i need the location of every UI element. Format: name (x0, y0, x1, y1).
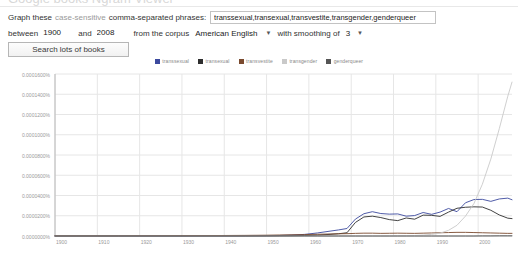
x-axis-tick-label: 1950 (268, 239, 279, 245)
legend-label: genderqueer (334, 58, 363, 64)
y-axis-tick-label: 0.0000200% (22, 213, 51, 219)
chevron-down-icon: ▼ (265, 30, 271, 36)
x-axis-tick-label: 1980 (395, 239, 406, 245)
legend-label: transvestite (246, 58, 273, 64)
legend-swatch-icon (155, 59, 160, 64)
query-form: Graph these case-sensitive comma-separat… (0, 7, 518, 62)
graph-these-label: Graph these (8, 13, 52, 22)
y-axis-tick-label: 0.0001200% (22, 112, 51, 118)
legend-label: transgender (289, 58, 317, 64)
legend-swatch-icon (326, 59, 331, 64)
y-axis-tick-label: 0.0001400% (22, 92, 51, 98)
x-axis-tick-label: 1960 (310, 239, 321, 245)
series-line[interactable] (55, 198, 512, 236)
ngram-viewer-app: Google books Ngram Viewer Graph these ca… (0, 0, 518, 256)
legend-item[interactable]: transsexual (155, 58, 189, 64)
legend-swatch-icon (198, 59, 203, 64)
chart-canvas: 0.0001600%0.0001400%0.0001200%0.0001000%… (0, 68, 518, 256)
legend-label: transsexual (162, 58, 189, 64)
y-axis-tick-label: 0.0000000% (22, 234, 51, 240)
smoothing-select[interactable]: 3 ▼ (344, 27, 365, 39)
corpus-select-value: American English (195, 29, 257, 38)
chevron-down-icon: ▼ (357, 30, 363, 36)
y-axis-tick-label: 0.0000400% (22, 193, 51, 199)
legend-item[interactable]: transgender (282, 58, 317, 64)
range-corpus-row: between and from the corpus American Eng… (8, 27, 369, 39)
year-end-input[interactable] (95, 28, 121, 39)
case-sensitive-label: case-sensitive (55, 13, 106, 22)
legend-item[interactable]: genderqueer (326, 58, 363, 64)
page-header-strip: Google books Ngram Viewer (0, 0, 518, 7)
x-axis-tick-label: 1920 (141, 239, 152, 245)
series-line[interactable] (55, 82, 512, 236)
chart-legend: transsexualtransexualtransvestitetransge… (0, 55, 518, 67)
from-corpus-label: from the corpus (134, 29, 190, 38)
y-axis-tick-label: 0.0000800% (22, 153, 51, 159)
smoothing-select-value: 3 (346, 29, 350, 38)
between-label: between (8, 29, 38, 38)
ngram-chart: 0.0001600%0.0001400%0.0001200%0.0001000%… (0, 68, 518, 256)
corpus-select[interactable]: American English ▼ (193, 27, 273, 39)
series-line[interactable] (55, 232, 512, 235)
legend-item[interactable]: transexual (198, 58, 230, 64)
x-axis-tick-label: 2000 (479, 239, 490, 245)
and-label: and (78, 29, 91, 38)
x-axis-tick-label: 1930 (183, 239, 194, 245)
query-input[interactable] (210, 11, 436, 24)
x-axis-tick-label: 1900 (56, 239, 67, 245)
x-axis-tick-label: 1990 (437, 239, 448, 245)
y-axis-tick-label: 0.0001600% (22, 72, 51, 78)
with-smoothing-label: with smoothing of (277, 29, 339, 38)
x-axis-tick-label: 1910 (98, 239, 109, 245)
legend-label: transexual (206, 58, 230, 64)
query-row: Graph these case-sensitive comma-separat… (8, 11, 436, 24)
legend-swatch-icon (239, 59, 244, 64)
x-axis-tick-label: 1940 (225, 239, 236, 245)
legend-item[interactable]: transvestite (239, 58, 273, 64)
page-header-title: Google books Ngram Viewer (8, 0, 174, 6)
year-start-input[interactable] (41, 28, 67, 39)
x-axis-tick-label: 1970 (352, 239, 363, 245)
y-axis-tick-label: 0.0000600% (22, 173, 51, 179)
comma-separated-label: comma-separated phrases: (109, 13, 206, 22)
legend-swatch-icon (282, 59, 287, 64)
y-axis-tick-label: 0.0001000% (22, 132, 51, 138)
